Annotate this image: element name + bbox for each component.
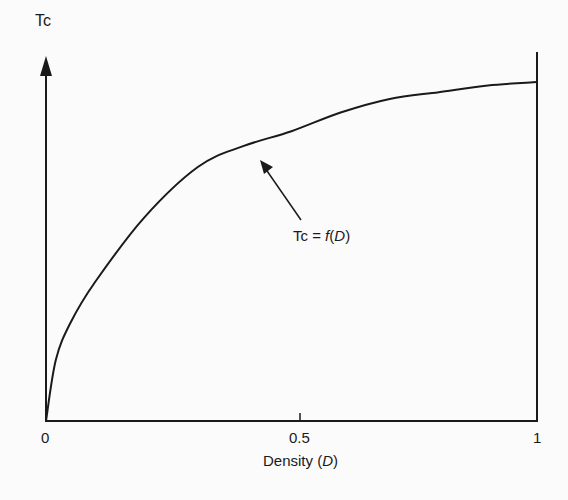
curve-annotation: Tc = f(D) [293, 227, 350, 244]
x-axis-label-close: ) [333, 452, 338, 469]
y-axis-arrow-icon [40, 56, 52, 76]
x-axis-label-var: D [322, 452, 333, 469]
x-tick-label-0: 0 [41, 429, 49, 446]
annotation-var: D [334, 227, 345, 244]
y-axis-label: Tc [35, 12, 51, 30]
tc-curve [46, 82, 537, 421]
annotation-arrow [265, 168, 301, 220]
chart-canvas [0, 0, 568, 500]
x-tick-label-1: 1 [533, 429, 541, 446]
annotation-arrowhead-icon [260, 160, 273, 174]
x-axis-label: Density (D) [263, 452, 338, 469]
annotation-prefix: Tc = [293, 227, 325, 244]
annotation-close: ) [345, 227, 350, 244]
x-axis-label-text: Density ( [263, 452, 322, 469]
x-tick-label-05: 0.5 [289, 429, 310, 446]
